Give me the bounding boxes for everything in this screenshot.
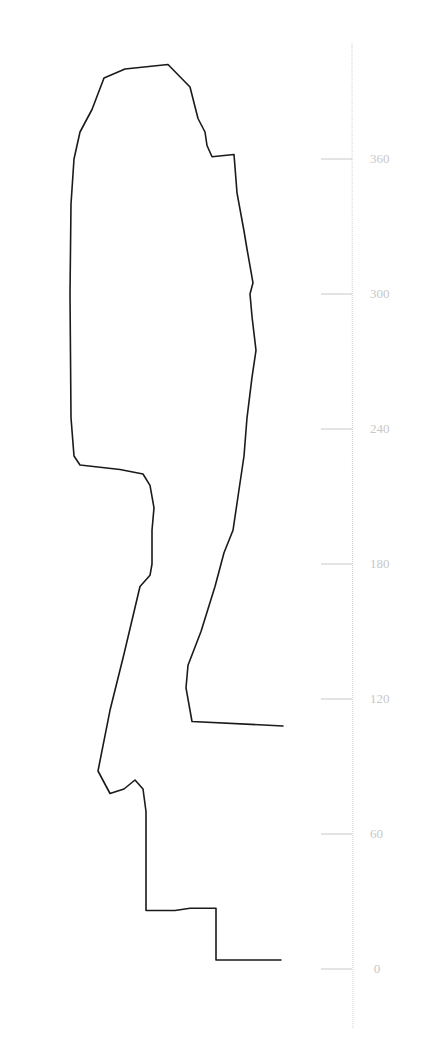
y-tick-label: 60 [370,826,383,841]
y-tick-label: 120 [370,691,390,706]
y-tick-label: 240 [370,421,390,436]
y-tick-label: 360 [370,151,390,166]
profile-chart: 060120180240300360 [0,0,422,1052]
y-tick-label: 300 [370,286,390,301]
y-tick-label: 0 [374,961,381,976]
y-axis-ticks: 060120180240300360 [321,151,390,976]
y-axis-line [352,43,353,1028]
y-tick-label: 180 [370,556,390,571]
profile-line [70,65,283,961]
